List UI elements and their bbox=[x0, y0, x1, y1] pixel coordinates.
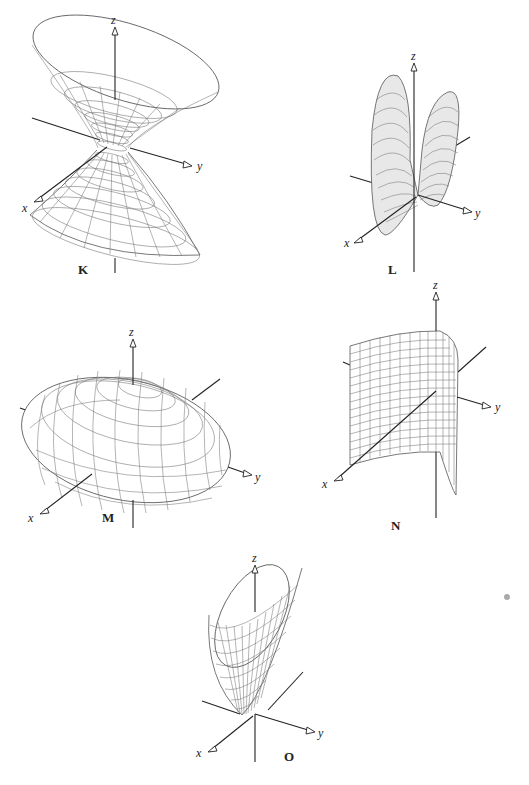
m-y-label: y bbox=[254, 470, 261, 484]
m-x-label: x bbox=[27, 511, 34, 525]
panel-n: z y x N bbox=[321, 278, 501, 533]
o-y-label: y bbox=[317, 726, 324, 740]
panel-l: z y x L bbox=[343, 49, 481, 277]
n-x-label: x bbox=[321, 477, 328, 491]
m-caption: M bbox=[102, 510, 114, 525]
n-y-label: y bbox=[494, 400, 501, 414]
k-y-label: y bbox=[196, 159, 203, 173]
k-x-label: x bbox=[21, 201, 28, 215]
o-x-label: x bbox=[195, 746, 202, 760]
panel-o: z y x O bbox=[195, 551, 324, 764]
l-y-label: y bbox=[474, 206, 481, 220]
k-caption: K bbox=[78, 262, 89, 277]
l-x-label: x bbox=[343, 236, 350, 250]
k-z-label: z bbox=[110, 13, 116, 27]
n-z-label: z bbox=[432, 278, 438, 292]
o-z-label: z bbox=[251, 551, 257, 565]
l-caption: L bbox=[388, 262, 397, 277]
scan-artifact-dot bbox=[504, 594, 510, 600]
m-z-label: z bbox=[128, 325, 134, 339]
panel-k: z y x K bbox=[21, 0, 230, 277]
l-z-label: z bbox=[410, 49, 416, 63]
o-caption: O bbox=[284, 749, 294, 764]
panel-m: z y x M bbox=[10, 325, 261, 528]
surfaces-figure: z y x K bbox=[0, 0, 529, 785]
n-caption: N bbox=[391, 518, 401, 533]
